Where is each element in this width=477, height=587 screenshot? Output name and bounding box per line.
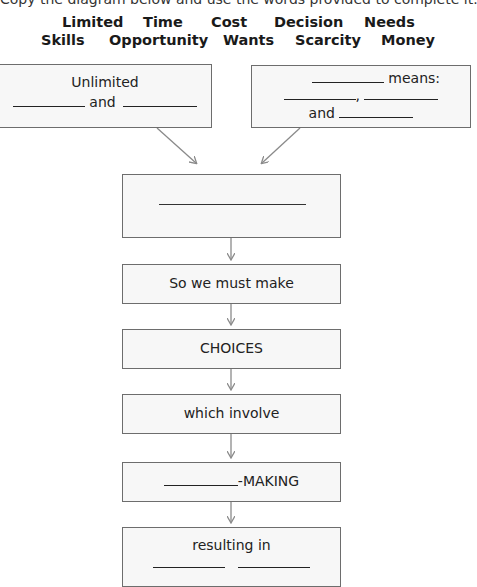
blank-unlimited-2[interactable] (123, 94, 197, 107)
box-resulting-in-blanks (123, 555, 340, 571)
box-means-line-3: and (252, 105, 470, 121)
box-resulting-in-text: resulting in (123, 537, 340, 553)
box-unlimited: Unlimited and (0, 64, 212, 128)
box-means-and: and (309, 105, 335, 121)
blank-means-3[interactable] (339, 105, 413, 118)
box-choices: CHOICES (122, 329, 341, 369)
box-which-involve-text: which involve (123, 405, 340, 421)
blank-means-1[interactable] (284, 87, 356, 100)
box-must-make: So we must make (122, 264, 341, 304)
blank-means-term[interactable] (312, 70, 384, 83)
box-making-suffix: -MAKING (238, 473, 299, 489)
box-making-line: -MAKING (123, 473, 340, 489)
blank-center[interactable] (159, 204, 306, 205)
blank-making[interactable] (164, 473, 238, 486)
box-resulting-in: resulting in (122, 527, 341, 587)
box-choices-text: CHOICES (123, 340, 340, 356)
box-unlimited-blanks: and (0, 94, 211, 110)
box-means-line-2: , (252, 87, 470, 103)
box-center-blank (122, 174, 341, 238)
box-means: means: , and (251, 65, 471, 128)
box-unlimited-and: and (89, 94, 115, 110)
blank-unlimited-1[interactable] (13, 94, 85, 107)
blank-result-1[interactable] (153, 555, 225, 568)
blank-result-2[interactable] (238, 555, 310, 568)
arrow-left-to-center (157, 128, 196, 163)
box-unlimited-title: Unlimited (0, 74, 211, 90)
comma: , (356, 87, 360, 103)
blank-means-2[interactable] (364, 87, 438, 100)
box-means-line-1: means: (252, 70, 470, 86)
box-which-involve: which involve (122, 394, 341, 434)
arrow-right-to-center (262, 128, 300, 163)
box-making: -MAKING (122, 462, 341, 502)
box-must-make-text: So we must make (123, 275, 340, 291)
box-means-label: means: (388, 70, 440, 86)
